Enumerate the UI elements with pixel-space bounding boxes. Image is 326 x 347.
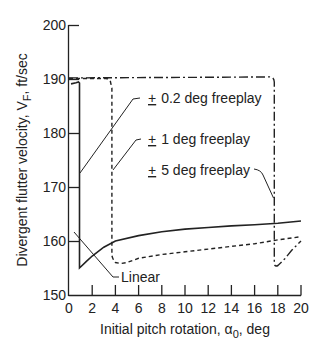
annotation-1-deg: +1 deg freeplay — [148, 131, 250, 147]
x-tick-20: 20 — [293, 300, 309, 316]
axes — [69, 25, 302, 296]
annotation-5-deg: +5 deg freeplay — [148, 162, 250, 178]
leader-0-2 — [80, 98, 140, 173]
x-tick-18: 18 — [270, 300, 286, 316]
x-tick-8: 8 — [158, 300, 166, 316]
x-axis-title: Initial pitch rotation, α0, deg — [100, 321, 270, 340]
x-tick-2: 2 — [88, 300, 96, 316]
y-tick-180: 180 — [43, 125, 67, 141]
flutter-velocity-chart: 150 160 170 180 190 200 0 2 4 6 8 10 12 … — [0, 0, 326, 347]
x-tick-0: 0 — [65, 300, 73, 316]
x-tick-12: 12 — [200, 300, 216, 316]
y-axis-title: Divergent flutter velocity, VF, ft/sec — [14, 53, 33, 266]
leader-1 — [113, 139, 141, 170]
y-tick-190: 190 — [43, 71, 67, 87]
y-tick-170: 170 — [43, 179, 67, 195]
annotation-linear: Linear — [121, 269, 160, 285]
leader-lines — [74, 98, 274, 277]
leader-linear — [74, 232, 119, 277]
x-tick-14: 14 — [224, 300, 240, 316]
x-tick-6: 6 — [135, 300, 143, 316]
y-tick-160: 160 — [43, 233, 67, 249]
leader-5 — [254, 169, 274, 198]
y-tick-labels: 150 160 170 180 190 200 — [43, 17, 67, 303]
x-tick-labels: 0 2 4 6 8 10 12 14 16 18 20 — [65, 300, 309, 316]
x-tick-10: 10 — [177, 300, 193, 316]
annotation-0-2-deg: +0.2 deg freeplay — [148, 90, 262, 106]
x-tick-4: 4 — [112, 300, 120, 316]
x-tick-16: 16 — [247, 300, 263, 316]
y-tick-200: 200 — [43, 17, 67, 33]
y-tick-150: 150 — [43, 287, 67, 303]
annotations: +0.2 deg freeplay +1 deg freeplay +5 deg… — [121, 90, 262, 285]
